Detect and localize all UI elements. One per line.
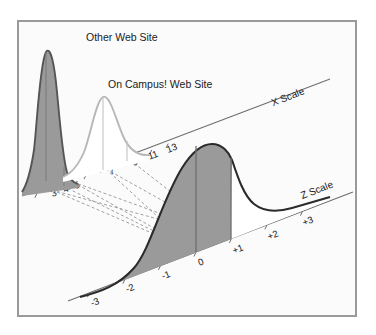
z-tick-label-plus1: +1 [231, 242, 245, 256]
curve-on-campus-web-site-fill [63, 97, 150, 182]
x-scale-axis-label: X Scale [270, 85, 307, 108]
z-tick-label-plus3: +3 [301, 214, 315, 228]
figure-page: 3 4 5 7 9 11 13 X Scale -3 -2 -1 0 [0, 0, 376, 335]
z-tick-label-minus1: -1 [160, 268, 172, 281]
z-tick-label-plus2: +2 [266, 228, 280, 242]
z-tick-label-minus2: -2 [124, 281, 136, 294]
z-tick-label-0: 0 [196, 256, 205, 268]
x-tick-label-13: 13 [165, 141, 179, 155]
label-other-web-site: Other Web Site [86, 31, 158, 43]
label-on-campus-web-site: On Campus! Web Site [108, 78, 212, 90]
distribution-diagram: 3 4 5 7 9 11 13 X Scale -3 -2 -1 0 [0, 0, 376, 335]
curve-z-distribution-fill-unshaded [231, 160, 330, 239]
curve-on-campus-web-site-group [63, 97, 150, 182]
z-tick-label-minus3: -3 [89, 295, 101, 308]
